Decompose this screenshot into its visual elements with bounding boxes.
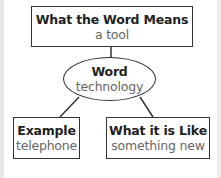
connector-center-example <box>60 97 79 117</box>
example-box: Example telephone <box>13 117 80 159</box>
word-heading: Word <box>91 64 127 79</box>
like-box: What it is Like something new <box>106 117 210 159</box>
example-heading: Example <box>17 123 75 138</box>
word-value: technology <box>76 79 143 94</box>
meaning-box: What the Word Means a tool <box>31 6 193 47</box>
meaning-value: a tool <box>95 27 129 42</box>
connector-center-like <box>140 97 153 117</box>
example-value: telephone <box>16 138 77 153</box>
like-value: something new <box>111 138 204 153</box>
like-heading: What it is Like <box>109 123 207 138</box>
word-ellipse: Word technology <box>63 57 156 101</box>
meaning-heading: What the Word Means <box>36 12 188 27</box>
